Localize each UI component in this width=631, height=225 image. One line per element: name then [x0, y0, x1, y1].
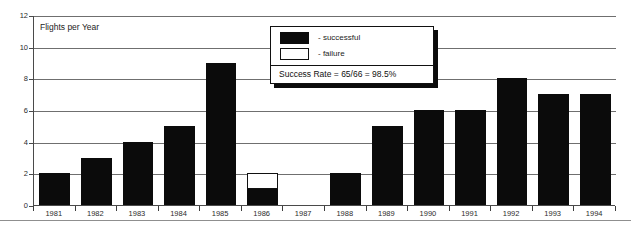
bar-segment-successful — [39, 173, 70, 205]
y-tick-label-4: 4 — [4, 139, 28, 147]
bar-slot — [164, 15, 195, 205]
x-tick-label-1982: 1982 — [75, 209, 115, 218]
bar-slot — [39, 15, 70, 205]
legend-entry-successful: - successful — [280, 31, 360, 45]
success-rate-annotation: Success Rate = 65/66 = 98.5% — [279, 69, 396, 80]
bar-segment-successful — [497, 78, 528, 205]
x-tick-label-1989: 1989 — [366, 209, 406, 218]
y-tick-label-12: 12 — [4, 12, 28, 20]
table-row[interactable] — [39, 173, 70, 205]
x-tick-label-1985: 1985 — [200, 209, 240, 218]
table-row[interactable] — [330, 173, 361, 205]
y-tick-label-10: 10 — [4, 44, 28, 52]
bar-segment-successful — [580, 94, 611, 205]
bottom-divider — [0, 220, 631, 221]
bar-segment-successful — [330, 173, 361, 205]
legend-swatch-successful-icon — [280, 32, 309, 44]
x-tick-label-1991: 1991 — [450, 209, 490, 218]
y-tick-label-2: 2 — [4, 170, 28, 178]
chart-figure: 024681012 Flights per Year 1981198219831… — [0, 0, 631, 225]
bar-slot — [81, 15, 112, 205]
x-tick-label-1992: 1992 — [491, 209, 531, 218]
x-tick-label-1983: 1983 — [117, 209, 157, 218]
y-tick-label-8: 8 — [4, 75, 28, 83]
table-row[interactable] — [414, 110, 445, 205]
bar-segment-successful — [455, 110, 486, 205]
x-tick-label-1986: 1986 — [242, 209, 282, 218]
table-row[interactable] — [538, 94, 569, 205]
bar-segment-failure — [247, 173, 278, 189]
bar-segment-successful — [164, 126, 195, 205]
legend-divider — [271, 65, 433, 66]
bar-segment-successful — [414, 110, 445, 205]
bar-segment-successful — [123, 142, 154, 205]
bar-slot — [497, 15, 528, 205]
bar-segment-successful — [206, 63, 237, 206]
bar-slot — [580, 15, 611, 205]
table-row[interactable] — [455, 110, 486, 205]
legend-box: - successful - failure Success Rate = 65… — [270, 26, 434, 84]
table-row[interactable] — [164, 126, 195, 205]
x-tick-label-1993: 1993 — [533, 209, 573, 218]
table-row[interactable] — [206, 63, 237, 206]
x-tick-label-1981: 1981 — [34, 209, 74, 218]
legend-entries: - successful - failure — [271, 27, 433, 65]
table-row[interactable] — [497, 78, 528, 205]
legend-label-successful: - successful — [318, 33, 360, 43]
x-tick-label-1988: 1988 — [325, 209, 365, 218]
table-row[interactable] — [123, 142, 154, 205]
x-tick-mark — [615, 206, 616, 211]
bar-segment-successful — [538, 94, 569, 205]
bar-segment-successful — [81, 158, 112, 206]
y-tick-label-6: 6 — [4, 107, 28, 115]
table-row[interactable] — [81, 158, 112, 206]
x-tick-label-1987: 1987 — [283, 209, 323, 218]
legend-label-failure: - failure — [318, 49, 345, 59]
bar-segment-successful — [247, 189, 278, 205]
x-tick-label-1984: 1984 — [159, 209, 199, 218]
table-row[interactable] — [247, 173, 278, 205]
legend-entry-failure: - failure — [280, 47, 345, 61]
x-tick-label-1990: 1990 — [408, 209, 448, 218]
bar-slot — [123, 15, 154, 205]
table-row[interactable] — [372, 126, 403, 205]
bar-slot — [455, 15, 486, 205]
y-tick-label-0: 0 — [4, 202, 28, 210]
chart-title: Flights per Year — [40, 22, 99, 32]
legend-swatch-failure-icon — [280, 48, 309, 60]
bar-slot — [206, 15, 237, 205]
bar-segment-successful — [372, 126, 403, 205]
bar-slot — [538, 15, 569, 205]
table-row[interactable] — [580, 94, 611, 205]
x-tick-label-1994: 1994 — [574, 209, 614, 218]
